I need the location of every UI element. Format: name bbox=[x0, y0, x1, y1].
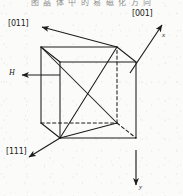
label-direction-001: [001] bbox=[132, 9, 153, 18]
cube-diagonals bbox=[41, 47, 117, 138]
arrow-001 bbox=[130, 25, 162, 73]
arrow-011 bbox=[42, 27, 117, 47]
label-axis-y: y bbox=[139, 183, 142, 191]
figure-canvas: 图 晶 体 中 的 易 磁 化 方 向 bbox=[0, 0, 183, 196]
label-direction-011: [011] bbox=[8, 19, 29, 28]
label-axis-x: x bbox=[162, 31, 165, 39]
label-field-h: H bbox=[9, 68, 15, 77]
cube-front-face bbox=[60, 62, 136, 138]
arrow-111 bbox=[29, 138, 60, 157]
label-direction-111: [111] bbox=[6, 147, 27, 156]
cube-diagram-svg bbox=[0, 0, 183, 196]
